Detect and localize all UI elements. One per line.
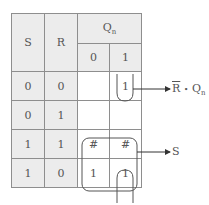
q-term: Q xyxy=(192,82,201,95)
and-dot: • xyxy=(184,85,189,94)
group-loop-wrap xyxy=(117,170,133,203)
r-bar: R xyxy=(172,82,180,95)
term-s: S xyxy=(172,145,180,158)
term-rbar-qn: R • Qn xyxy=(172,82,206,97)
grouping-overlay xyxy=(0,0,209,205)
q-subscript: n xyxy=(201,89,206,97)
group-loop-rq xyxy=(117,74,133,101)
group-loop-s xyxy=(82,138,137,191)
